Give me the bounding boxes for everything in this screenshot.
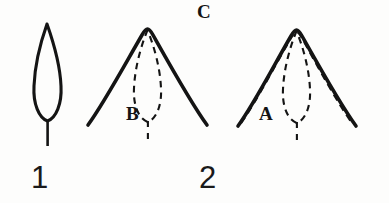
panel-2: C B A 2 [60, 0, 235, 203]
arch-dashed-overlay-icon [241, 32, 352, 123]
panel-3-drawing [215, 0, 389, 203]
label-c-panel-2: C [197, 2, 211, 21]
label-b-panel-2: B [126, 104, 139, 123]
leaf-outline-icon [34, 24, 61, 121]
arch-solid-icon [88, 29, 207, 125]
panel-1-caption: 1 [31, 162, 48, 193]
panel-3: C B A 3 [215, 0, 389, 203]
panel-2-caption: 2 [199, 162, 216, 193]
figure-diagram: 1 C B A 2 C B A 3 [0, 0, 389, 203]
arch-solid-icon [238, 30, 356, 126]
